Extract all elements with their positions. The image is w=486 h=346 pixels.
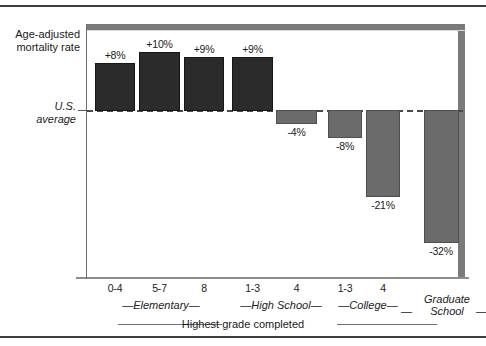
group-dash-right-college: — bbox=[387, 299, 398, 311]
group-label-elementary-text: Elementary bbox=[133, 299, 189, 311]
group-label-elementary: —Elementary— bbox=[106, 299, 216, 311]
bar-elementary-5-7[interactable] bbox=[139, 52, 180, 111]
group-dash-right-elementary: — bbox=[189, 299, 200, 311]
y-axis-title: Age-adjusted mortality rate bbox=[8, 28, 80, 54]
bar-label-high-school-1-3: +9% bbox=[228, 43, 277, 55]
x-axis-origin-tick bbox=[86, 269, 87, 279]
group-dash-left-elementary: — bbox=[122, 299, 133, 311]
group-dash-right-graduate: — bbox=[476, 305, 486, 317]
tick-label-8: 8 bbox=[180, 282, 228, 294]
top-divider-rule bbox=[0, 5, 486, 7]
bar-graduate-school[interactable] bbox=[424, 110, 459, 243]
y-axis-line bbox=[86, 24, 87, 278]
group-label-high-school-text: High School bbox=[251, 299, 310, 311]
group-label-graduate-line1: Graduate bbox=[410, 293, 484, 305]
x-axis-line bbox=[76, 277, 469, 279]
tick-label-0-4: 0-4 bbox=[91, 282, 139, 294]
group-dash-left-college: — bbox=[338, 299, 349, 311]
bar-label-graduate-school: -32% bbox=[416, 245, 466, 257]
bar-high-school-4[interactable] bbox=[276, 110, 317, 124]
bar-label-college-1-3: -8% bbox=[322, 140, 368, 152]
bar-label-high-school-4: -4% bbox=[272, 126, 321, 138]
bar-elementary-8[interactable] bbox=[184, 57, 224, 111]
us-average-label-line1: U.S. bbox=[14, 100, 76, 113]
bar-high-school-1-3[interactable] bbox=[232, 57, 273, 111]
group-dash-left-graduate: — bbox=[401, 305, 411, 317]
tick-label-hs-4: 4 bbox=[272, 282, 321, 294]
caption-rule-right bbox=[337, 324, 437, 325]
bar-college-4[interactable] bbox=[366, 110, 400, 197]
y-axis-title-line2: mortality rate bbox=[8, 41, 80, 54]
us-average-label-line2: average bbox=[14, 113, 76, 126]
us-average-label: U.S. average bbox=[14, 100, 76, 126]
bar-label-elementary-8: +9% bbox=[180, 43, 228, 55]
tick-label-hs-1-3: 1-3 bbox=[228, 282, 277, 294]
group-dash-left-high-school: — bbox=[240, 299, 251, 311]
tick-label-5-7: 5-7 bbox=[135, 282, 184, 294]
plot-frame-inner-hairline bbox=[86, 30, 465, 31]
bar-label-college-4: -21% bbox=[358, 199, 408, 211]
bar-label-elementary-0-4: +8% bbox=[91, 49, 139, 61]
y-axis-title-line1: Age-adjusted bbox=[8, 28, 80, 41]
chart-figure: Age-adjusted mortality rate U.S. average… bbox=[0, 0, 486, 346]
group-label-college-text: College bbox=[349, 299, 386, 311]
bar-label-elementary-5-7: +10% bbox=[135, 38, 184, 50]
bar-elementary-0-4[interactable] bbox=[95, 63, 135, 111]
group-label-graduate-line2: School bbox=[410, 305, 484, 317]
bottom-divider-rule bbox=[0, 336, 486, 338]
tick-label-college-4: 4 bbox=[360, 282, 406, 294]
bar-college-1-3[interactable] bbox=[328, 110, 362, 138]
group-label-graduate-school: Graduate School bbox=[410, 293, 484, 317]
